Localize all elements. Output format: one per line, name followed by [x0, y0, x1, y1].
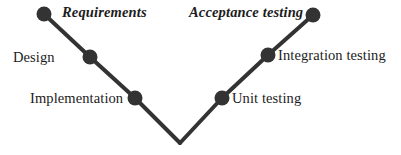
node-requirements [37, 7, 52, 22]
node-acceptance-testing [306, 8, 321, 23]
left-arm-line [44, 14, 180, 143]
label-requirements: Requirements [62, 5, 147, 20]
label-integration-testing: Integration testing [278, 48, 386, 63]
label-implementation: Implementation [30, 91, 123, 106]
v-model-graphic [0, 0, 401, 155]
node-design [83, 50, 98, 65]
node-implementation [128, 91, 143, 106]
node-integration-testing [261, 48, 276, 63]
node-unit-testing [215, 91, 230, 106]
v-model-diagram: Requirements Acceptance testing Design I… [0, 0, 401, 155]
label-unit-testing: Unit testing [232, 91, 301, 106]
right-arm-line [180, 15, 313, 143]
label-design: Design [13, 50, 55, 65]
label-acceptance-testing: Acceptance testing [189, 5, 303, 20]
